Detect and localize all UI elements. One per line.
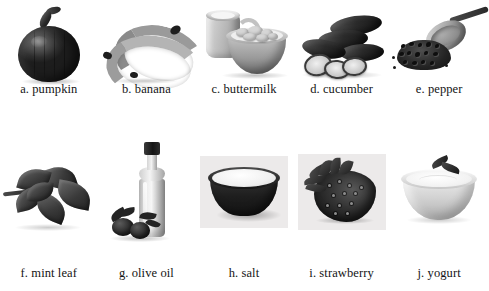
cucumber-photo <box>293 0 391 82</box>
mint-leaf-photo <box>0 140 98 266</box>
oil-bottle-cap <box>144 142 160 155</box>
milk-surface <box>211 12 235 19</box>
pumpkin-photo <box>0 0 98 82</box>
salt-photo-panel <box>200 156 288 228</box>
figure-item-mint-leaf: f. mint leaf <box>0 140 98 290</box>
caption-salt: h. salt <box>229 266 260 290</box>
figure-item-strawberry: i. strawberry <box>293 140 391 290</box>
figure-item-yogurt: j. yogurt <box>390 140 488 290</box>
figure-row-1: a. pumpkin b. banana <box>0 0 488 110</box>
yogurt-swirl <box>419 175 457 185</box>
caption-buttermilk: c. buttermilk <box>211 82 276 110</box>
salt-photo <box>195 140 293 266</box>
caption-yogurt: j. yogurt <box>418 266 461 290</box>
caption-olive-oil: g. olive oil <box>119 266 174 290</box>
caption-pumpkin: a. pumpkin <box>20 82 77 110</box>
buttermilk-photo <box>195 0 293 82</box>
salt-contents <box>212 169 276 187</box>
figure-item-pepper: e. pepper <box>390 0 488 110</box>
caption-pepper: e. pepper <box>416 82 463 110</box>
caption-cucumber: d. cucumber <box>310 82 373 110</box>
oil-bottle-neck <box>147 154 157 170</box>
pumpkin-body <box>18 26 80 82</box>
caption-strawberry: i. strawberry <box>309 266 373 290</box>
figure-item-buttermilk: c. buttermilk <box>195 0 293 110</box>
figure-row-2: f. mint leaf g <box>0 140 488 290</box>
mint-shadow <box>15 224 81 231</box>
figure-item-olive-oil: g. olive oil <box>98 140 196 290</box>
olive-oil-photo <box>98 140 196 266</box>
strawberry-photo <box>293 140 391 266</box>
caption-mint-leaf: f. mint leaf <box>21 266 77 290</box>
figure-item-pumpkin: a. pumpkin <box>0 0 98 110</box>
yogurt-photo <box>390 140 488 266</box>
figure-item-salt: h. salt <box>195 140 293 290</box>
figure-item-cucumber: d. cucumber <box>293 0 391 110</box>
pepper-photo <box>390 0 488 82</box>
figure-item-banana: b. banana <box>98 0 196 110</box>
strawberry-photo-panel <box>298 154 386 230</box>
banana-photo <box>98 0 196 82</box>
